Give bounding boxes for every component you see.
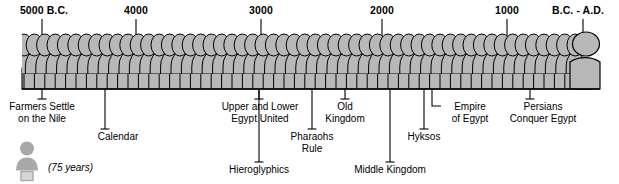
axis-label-2000: 2000 [370, 4, 394, 16]
egypt-timeline-figure: 5000 B.C.4000300020001000B.C. - A.D. Far… [0, 0, 619, 184]
event-label-line: Upper and Lower [222, 101, 299, 113]
leader-line-empire-of-egypt [432, 89, 441, 106]
event-label-farmers-settle-on-the-nile: Farmers Settleon the Nile [9, 101, 75, 124]
event-label-line: Old [325, 101, 364, 113]
scale-note: (75 years) [48, 162, 93, 173]
timeline-end-cap [570, 58, 600, 89]
event-label-line: Farmers Settle [9, 101, 75, 113]
event-label-line: Hyksos [408, 131, 441, 143]
timeline-end-bead [573, 32, 600, 56]
event-label-line: Hieroglyphics [229, 164, 289, 176]
event-label-line: of Egypt [452, 113, 489, 125]
event-label-calendar: Calendar [98, 131, 139, 143]
event-label-empire-of-egypt: Empireof Egypt [452, 101, 489, 124]
event-label-line: on the Nile [9, 113, 75, 125]
event-label-line: Pharaohs [291, 131, 334, 143]
axis-tick-group [42, 19, 583, 36]
event-label-line: Conquer Egypt [510, 113, 577, 125]
axis-label-b-c-a-d: B.C. - A.D. [552, 4, 604, 16]
event-label-line: Persians [510, 101, 577, 113]
event-label-old-kingdom: OldKingdom [325, 101, 364, 124]
axis-label-1000: 1000 [495, 4, 519, 16]
timeline-bar [15, 32, 600, 89]
event-label-middle-kingdom: Middle Kingdom [354, 164, 426, 176]
axis-label-4000: 4000 [124, 4, 148, 16]
event-label-hieroglyphics: Hieroglyphics [229, 164, 289, 176]
event-label-line: Kingdom [325, 113, 364, 125]
event-label-line: Empire [452, 101, 489, 113]
timeline-graphic [0, 0, 619, 184]
event-label-line: Calendar [98, 131, 139, 143]
event-label-hyksos: Hyksos [408, 131, 441, 143]
event-label-pharaohs-rule: PharaohsRule [291, 131, 334, 154]
axis-label-3000: 3000 [249, 4, 273, 16]
event-label-upper-and-lower-egypt-united: Upper and LowerEgypt United [222, 101, 299, 124]
event-label-line: Egypt United [222, 113, 299, 125]
axis-label-5000-b-c: 5000 B.C. [20, 4, 68, 16]
person-icon [16, 142, 38, 181]
leader-line-group [38, 89, 535, 162]
event-label-line: Middle Kingdom [354, 164, 426, 176]
event-label-line: Rule [291, 143, 334, 155]
event-label-persians-conquer-egypt: PersiansConquer Egypt [510, 101, 577, 124]
